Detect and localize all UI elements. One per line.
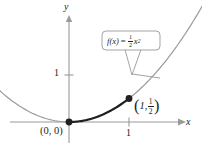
- function-coefficient-numerator: 1: [128, 34, 133, 40]
- function-argument: (x): [109, 37, 118, 46]
- function-exponent: 2: [137, 38, 140, 44]
- function-coefficient-denominator: 2: [128, 42, 133, 48]
- graph-figure: y x 1 1 (0, 0) ( 1 , 1 2 ) f (x) = 1 2 x…: [0, 0, 202, 161]
- curve-bold-arc: [69, 99, 129, 123]
- endpoint-label-fraction-denominator: 2: [148, 108, 154, 116]
- y-axis-label: y: [64, 2, 68, 12]
- x-axis-tick-label: 1: [126, 128, 131, 138]
- origin-point-label: (0, 0): [40, 126, 63, 137]
- x-axis: [10, 119, 186, 126]
- origin-point-marker: [66, 119, 73, 126]
- endpoint-label-fraction-numerator: 1: [148, 98, 154, 106]
- function-callout-label: f (x) = 1 2 x 2: [107, 34, 141, 48]
- x-axis-arrow: [178, 119, 186, 126]
- endpoint-point-label: ( 1 , 1 2 ): [134, 98, 160, 115]
- y-axis-tick-label: 1: [54, 68, 59, 78]
- x-axis-label: x: [186, 117, 190, 127]
- y-axis-arrow: [66, 15, 72, 22]
- plot-canvas: [0, 0, 202, 161]
- function-coefficient-fraction: 1 2: [128, 34, 133, 48]
- function-equals: =: [121, 37, 126, 46]
- curve-light: [0, 0, 202, 122]
- endpoint-label-close-paren: ): [154, 99, 159, 114]
- endpoint-marker: [126, 95, 133, 102]
- endpoint-label-fraction: 1 2: [148, 98, 154, 115]
